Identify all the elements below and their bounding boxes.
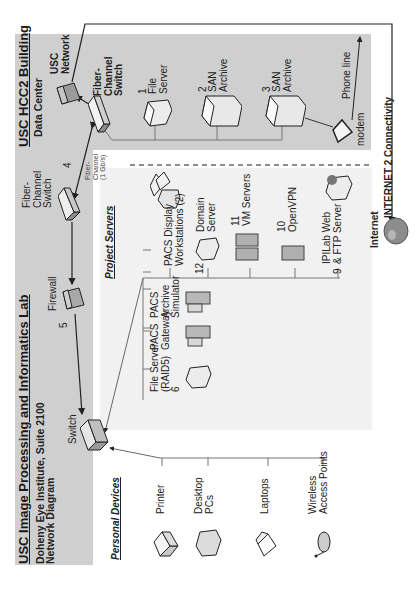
server-number: 10: [276, 221, 287, 232]
project-server-domain-server[interactable]: 12 Domain Server: [192, 168, 224, 268]
laptop-icon: [254, 530, 280, 558]
server-number: 11: [230, 216, 241, 226]
phone-line-label: Phone line: [342, 52, 353, 99]
project-server-pacs-display[interactable]: PACS Display Workstations (2): [150, 168, 188, 268]
modem-icon: [332, 118, 354, 144]
wireless-access-point-icon: [312, 530, 334, 558]
firewall-label: Firewall: [48, 277, 59, 311]
device-label: Desktop PCs: [194, 477, 215, 514]
lab-fc-switch-icon: [58, 186, 82, 222]
switch-label: Switch: [68, 415, 79, 444]
link-5-number: 5: [58, 322, 69, 328]
project-server-ipilab-web-ftp[interactable]: 9 IPILab Web & FTP Server: [318, 168, 368, 268]
link-4-number: 4: [62, 162, 73, 168]
server-label: Domain Server: [196, 198, 217, 232]
project-servers-row1: [150, 280, 370, 430]
san-archive-icon: [264, 94, 306, 128]
switch-icon: [80, 418, 110, 454]
datacenter-fc-switch-label: Fiber- Channel Switch: [93, 57, 125, 96]
server-1-label: File Server: [148, 65, 169, 94]
personal-devices-heading: Personal Devices: [110, 477, 121, 560]
personal-device-desktop-pcs[interactable]: Desktop PCs: [192, 466, 224, 562]
vm-servers-icon: [234, 232, 260, 262]
device-label: Wireless Access Points: [308, 451, 329, 514]
desktop-pc-icon: [194, 528, 222, 558]
lab-title: USC Image Processing and Informatics Lab: [16, 295, 31, 564]
modem-label: modem: [356, 113, 367, 146]
lab-fc-switch-label: Fiber- Channel Switch: [22, 171, 54, 208]
server-label: OpenVPN: [288, 187, 299, 232]
internet-label: Internet: [370, 211, 381, 248]
datacenter-server-2[interactable]: 2 SAN Archive: [198, 48, 242, 128]
openvpn-icon: [280, 242, 306, 262]
datacenter-fc-switch-icon: [88, 94, 112, 134]
device-label: Printer: [156, 485, 167, 514]
project-server-openvpn[interactable]: 10 OpenVPN: [278, 168, 308, 268]
server-number: 9: [332, 268, 343, 274]
datacenter-title: USC HCC2 Building: [16, 25, 31, 147]
server-3-label: SAN Archive: [272, 59, 293, 92]
web-server-icon: [324, 172, 354, 202]
datacenter-server-1[interactable]: 1 File Server: [138, 48, 178, 128]
domain-server-icon: [194, 236, 220, 262]
server-2-label: SAN Archive: [208, 59, 229, 92]
project-servers-heading: Project Servers: [104, 206, 115, 279]
usc-network-label: USC Network: [50, 35, 71, 74]
file-server-icon: [142, 98, 172, 128]
usc-network-icon: [56, 80, 82, 108]
san-archive-icon: [200, 94, 242, 128]
personal-device-printer[interactable]: Printer: [150, 466, 180, 562]
personal-device-wireless-access-points[interactable]: Wireless Access Points: [306, 458, 340, 562]
server-number: 12: [194, 263, 205, 274]
internet2-connectivity-label: INTERNET 2 Connectivity: [384, 97, 395, 218]
datacenter-server-3[interactable]: 3 SAN Archive: [262, 48, 306, 128]
server-label: PACS Display Workstations (2): [164, 193, 185, 266]
network-diagram: USC Image Processing and Informatics Lab…: [0, 0, 415, 594]
datacenter-subtitle: Data Center: [33, 78, 44, 137]
printer-icon: [152, 530, 180, 560]
personal-device-laptops[interactable]: Laptops: [252, 466, 282, 562]
internet-globe-icon: [382, 216, 410, 246]
server-label: IPILab Web & FTP Server: [322, 204, 343, 264]
project-server-vm-servers[interactable]: 11 VM Servers: [232, 168, 262, 268]
device-label: Laptops: [260, 478, 271, 514]
firewall-icon: [62, 286, 86, 312]
lab-subtitle-2: Network Diagram: [45, 478, 56, 564]
link-4-label: Fiber- Channel (1 Gb/s): [84, 154, 107, 180]
server-label: VM Servers: [242, 174, 253, 226]
